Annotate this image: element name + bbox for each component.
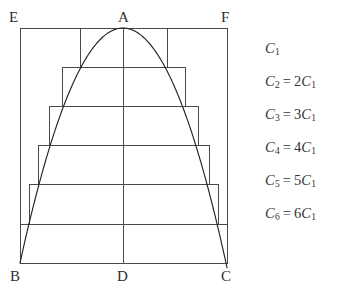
legend-lhs-symbol: C5: [265, 172, 280, 188]
legend-rhs-symbol: C1: [301, 106, 316, 122]
legend-row-c5: C5=5C1: [265, 164, 349, 197]
legend-equals-sign: =: [280, 205, 294, 221]
legend-row-c4: C4=4C1: [265, 131, 349, 164]
legend-row-c6: C6=6C1: [265, 197, 349, 230]
figure-root: EAFBDC C1C2=2C1C3=3C1C4=4C1C5=5C1C6=6C1: [0, 0, 349, 296]
vertex-label-d: D: [117, 268, 128, 284]
legend-lhs-subscript: 1: [275, 47, 280, 57]
legend-row-c3: C3=3C1: [265, 98, 349, 131]
legend-rhs-subscript: 1: [311, 212, 316, 222]
legend-rhs-subscript: 1: [311, 113, 316, 123]
legend-lhs-subscript: 2: [275, 80, 280, 90]
legend-lhs-symbol: C4: [265, 139, 280, 155]
legend-equals-sign: =: [280, 172, 294, 188]
legend-rhs-symbol: C1: [301, 205, 316, 221]
legend-rhs-symbol: C1: [301, 73, 316, 89]
legend-rhs-subscript: 1: [311, 146, 316, 156]
legend: C1C2=2C1C3=3C1C4=4C1C5=5C1C6=6C1: [265, 32, 349, 230]
vertex-label-a: A: [118, 9, 129, 25]
vertex-label-e: E: [9, 9, 18, 25]
legend-equals-sign: =: [280, 106, 294, 122]
vertex-label-c: C: [221, 268, 231, 284]
legend-equals-sign: =: [280, 139, 294, 155]
legend-rhs-symbol: C1: [301, 139, 316, 155]
legend-rhs-symbol: C1: [301, 172, 316, 188]
legend-row-c1: C1: [265, 32, 349, 65]
vertex-label-b: B: [10, 268, 20, 284]
legend-lhs-symbol: C3: [265, 106, 280, 122]
legend-lhs-symbol: C2: [265, 73, 280, 89]
legend-lhs-subscript: 5: [275, 179, 280, 189]
legend-rhs-subscript: 1: [311, 80, 316, 90]
vertex-label-f: F: [221, 9, 229, 25]
legend-lhs-subscript: 3: [275, 113, 280, 123]
legend-lhs-subscript: 6: [275, 212, 280, 222]
legend-row-c2: C2=2C1: [265, 65, 349, 98]
legend-lhs-symbol: C6: [265, 205, 280, 221]
legend-lhs-subscript: 4: [275, 146, 280, 156]
legend-equals-sign: =: [280, 73, 294, 89]
legend-lhs-symbol: C1: [265, 40, 280, 56]
legend-rhs-subscript: 1: [311, 179, 316, 189]
